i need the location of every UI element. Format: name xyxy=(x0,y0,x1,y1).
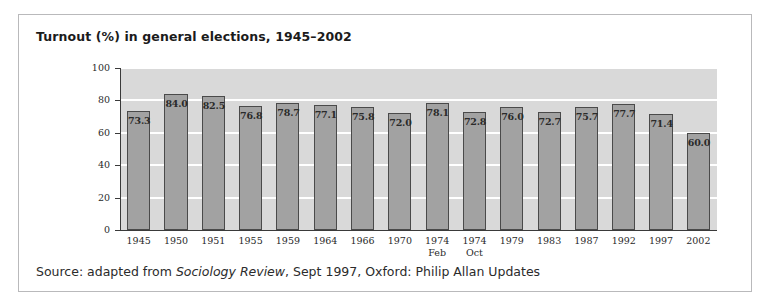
bar-rect: 82.5 xyxy=(202,96,225,230)
y-axis xyxy=(120,68,121,230)
bar-value-label: 60.0 xyxy=(688,137,709,148)
bar: 72.0 xyxy=(388,68,411,230)
y-tick-label: 80 xyxy=(80,94,110,105)
x-tick-label: 1959 xyxy=(269,235,306,247)
bar: 82.5 xyxy=(202,68,225,230)
bar: 75.7 xyxy=(575,68,598,230)
source-prefix: Source: adapted from xyxy=(36,264,176,279)
x-axis xyxy=(120,230,717,231)
x-tick-label: 1983 xyxy=(530,235,567,247)
bar-rect: 72.0 xyxy=(388,113,411,230)
bar-rect: 71.4 xyxy=(649,114,672,230)
x-tick-sublabel: Oct xyxy=(456,247,493,259)
y-tick-mark xyxy=(115,198,120,199)
y-tick-mark xyxy=(115,165,120,166)
x-tick-label: 1966 xyxy=(344,235,381,247)
bar-value-label: 78.7 xyxy=(277,107,298,118)
bar-value-label: 72.0 xyxy=(389,117,410,128)
bar: 72.7 xyxy=(538,68,561,230)
x-tick-label: 1987 xyxy=(568,235,605,247)
x-tick-label: 1955 xyxy=(232,235,269,247)
y-tick-mark xyxy=(115,68,120,69)
bar-rect: 77.7 xyxy=(612,104,635,230)
bar: 77.1 xyxy=(314,68,337,230)
bar-rect: 72.8 xyxy=(463,112,486,230)
bar-value-label: 72.8 xyxy=(464,116,485,127)
y-tick-label: 60 xyxy=(80,127,110,138)
bar-value-label: 75.7 xyxy=(576,111,597,122)
y-tick-mark xyxy=(115,100,120,101)
source-publication: Sociology Review xyxy=(176,264,285,279)
bar-value-label: 77.1 xyxy=(315,109,336,120)
bar-chart: 020406080100 73.384.082.576.878.777.175.… xyxy=(78,63,733,263)
bar-value-label: 78.1 xyxy=(427,107,448,118)
bar-rect: 75.7 xyxy=(575,107,598,230)
x-tick-label: 1979 xyxy=(493,235,530,247)
bar-value-label: 76.0 xyxy=(501,111,522,122)
x-tick-label: 1945 xyxy=(120,235,157,247)
bar-value-label: 75.8 xyxy=(352,111,373,122)
source-caption: Source: adapted from Sociology Review, S… xyxy=(36,264,540,279)
bar: 76.8 xyxy=(239,68,262,230)
page-title: Turnout (%) in general elections, 1945–2… xyxy=(36,29,352,44)
bar-rect: 77.1 xyxy=(314,105,337,230)
bar: 84.0 xyxy=(164,68,187,230)
bar-rect: 78.1 xyxy=(426,103,449,230)
bar-value-label: 77.7 xyxy=(613,108,634,119)
bar: 60.0 xyxy=(687,68,710,230)
bar: 78.1 xyxy=(426,68,449,230)
x-tick-label: 1974Feb xyxy=(419,235,456,259)
bar: 75.8 xyxy=(351,68,374,230)
x-tick-label: 1974Oct xyxy=(456,235,493,259)
y-tick-label: 20 xyxy=(80,192,110,203)
bar-value-label: 82.5 xyxy=(203,100,224,111)
x-tick-label: 2002 xyxy=(680,235,717,247)
x-tick-label: 1992 xyxy=(605,235,642,247)
bar-rect: 72.7 xyxy=(538,112,561,230)
y-tick-label: 100 xyxy=(80,62,110,73)
bar-rect: 84.0 xyxy=(164,94,187,230)
bar: 72.8 xyxy=(463,68,486,230)
x-tick-sublabel: Feb xyxy=(419,247,456,259)
bar-value-label: 71.4 xyxy=(650,118,671,129)
bar: 77.7 xyxy=(612,68,635,230)
bar-rect: 76.8 xyxy=(239,106,262,230)
figure-frame: Turnout (%) in general elections, 1945–2… xyxy=(18,14,752,292)
bar: 73.3 xyxy=(127,68,150,230)
bar-rect: 76.0 xyxy=(500,107,523,230)
x-tick-label: 1970 xyxy=(381,235,418,247)
x-tick-label: 1951 xyxy=(195,235,232,247)
bar-value-label: 73.3 xyxy=(128,115,149,126)
bar-rect: 60.0 xyxy=(687,133,710,230)
bar-rect: 73.3 xyxy=(127,111,150,230)
y-tick-mark xyxy=(115,133,120,134)
bar: 78.7 xyxy=(276,68,299,230)
bar-value-label: 84.0 xyxy=(165,98,186,109)
bar-rect: 78.7 xyxy=(276,103,299,230)
x-tick-label: 1950 xyxy=(157,235,194,247)
bar-value-label: 72.7 xyxy=(539,116,560,127)
bar-rect: 75.8 xyxy=(351,107,374,230)
y-tick-mark xyxy=(115,230,120,231)
y-tick-label: 40 xyxy=(80,159,110,170)
bar-value-label: 76.8 xyxy=(240,110,261,121)
source-suffix: , Sept 1997, Oxford: Philip Allan Update… xyxy=(285,264,540,279)
bar: 71.4 xyxy=(649,68,672,230)
bar: 76.0 xyxy=(500,68,523,230)
x-tick-label: 1964 xyxy=(307,235,344,247)
x-tick-label: 1997 xyxy=(642,235,679,247)
y-tick-label: 0 xyxy=(80,224,110,235)
